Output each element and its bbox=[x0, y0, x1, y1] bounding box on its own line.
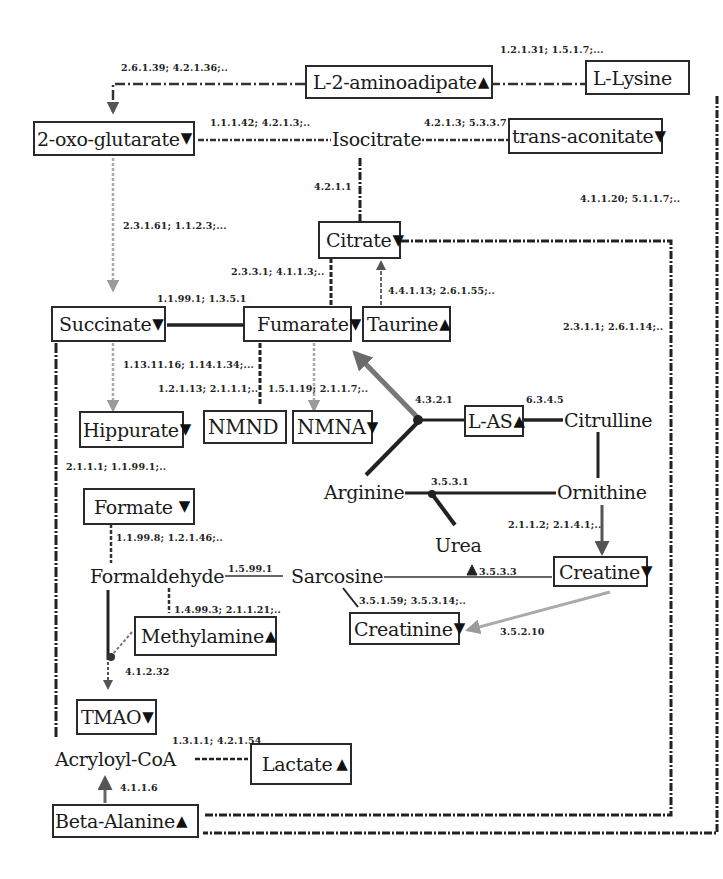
node-ornithine[interactable]: Ornithine bbox=[556, 481, 648, 503]
node-citrulline[interactable]: Citrulline bbox=[563, 409, 653, 431]
up-marker-icon: ▲ bbox=[478, 75, 489, 90]
node-label: Acryloyl-CoA bbox=[55, 748, 176, 770]
node-creatinine[interactable]: Creatinine▼ bbox=[349, 612, 460, 645]
node-creatine[interactable]: Creatine▼ bbox=[553, 556, 648, 587]
node-label: Creatinine bbox=[354, 618, 453, 640]
up-marker-icon: ▲ bbox=[336, 757, 347, 772]
las-junction-dot bbox=[413, 415, 423, 425]
edge-label: 1.3.1.1; 4.2.1.54 bbox=[172, 735, 262, 746]
down-marker-icon: ▼ bbox=[181, 131, 192, 146]
node-label: Lactate bbox=[262, 753, 332, 775]
edge-label: 1.2.1.31; 1.5.1.7;... bbox=[500, 44, 604, 55]
node-nmnd[interactable]: NMND bbox=[203, 410, 287, 444]
down-marker-icon: ▼ bbox=[152, 317, 163, 332]
edge-label: 1.13.11.16; 1.14.1.34;... bbox=[123, 359, 254, 370]
node-label: Arginine bbox=[324, 481, 404, 503]
node-l-as[interactable]: L-AS▲ bbox=[464, 405, 524, 437]
node-label: Citrulline bbox=[564, 409, 652, 431]
edge-arginine-urea bbox=[432, 494, 455, 525]
edge-label: 4.2.1.1 bbox=[314, 181, 352, 192]
edge-label: 4.3.2.1 bbox=[415, 394, 453, 405]
edge-label: 1.1.99.8; 1.2.1.46;.. bbox=[116, 532, 223, 543]
arginine-urea-junction-dot bbox=[428, 490, 436, 498]
node-2-oxo-glutarate[interactable]: 2-oxo-glutarate▼ bbox=[33, 121, 195, 156]
edge-label: 3.5.1.59; 3.5.3.14;.. bbox=[359, 595, 466, 606]
node-label: Creatine bbox=[559, 561, 640, 583]
up-marker-icon: ▲ bbox=[439, 317, 450, 332]
edge-label: 2.1.1.1; 1.1.99.1;.. bbox=[66, 461, 166, 472]
edge-aminoadipate-oxoglutarate bbox=[113, 84, 305, 112]
edge-label: 3.5.2.10 bbox=[500, 626, 545, 637]
node-succinate[interactable]: Succinate▼ bbox=[51, 306, 166, 342]
node-label: Isocitrate bbox=[332, 128, 421, 150]
down-marker-icon: ▼ bbox=[179, 499, 190, 514]
node-fumarate[interactable]: Fumarate▼ bbox=[243, 306, 352, 342]
node-tmao[interactable]: TMAO▼ bbox=[76, 699, 157, 735]
node-l-lysine[interactable]: L-Lysine bbox=[585, 60, 690, 95]
down-marker-icon: ▼ bbox=[142, 710, 153, 725]
down-marker-icon: ▼ bbox=[655, 129, 666, 144]
down-marker-icon: ▼ bbox=[392, 233, 403, 248]
node-label: L-2-aminoadipate bbox=[313, 71, 477, 93]
node-urea[interactable]: Urea bbox=[434, 534, 482, 556]
edge-label: 2.6.1.39; 4.2.1.36;.. bbox=[121, 62, 228, 73]
node-methylamine[interactable]: Methylamine▲ bbox=[134, 616, 277, 656]
edge-label: 2.1.1.2; 2.1.4.1;.. bbox=[508, 519, 601, 530]
edge-label: 2.3.1.61; 1.1.2.3;... bbox=[123, 220, 227, 231]
node-label: Formaldehyde bbox=[90, 565, 224, 587]
edge-label: 2.3.3.1; 4.1.1.3;.. bbox=[231, 266, 324, 277]
up-marker-icon: ▲ bbox=[265, 629, 276, 644]
node-label: Citrate bbox=[326, 229, 391, 251]
node-label: TMAO bbox=[81, 706, 141, 728]
node-label: trans-aconitate bbox=[512, 125, 654, 147]
edge-label: 4.1.1.6 bbox=[120, 782, 158, 793]
down-marker-icon: ▼ bbox=[180, 422, 191, 437]
edge-label: 4.1.2.32 bbox=[125, 666, 170, 677]
node-label: L-AS bbox=[468, 410, 513, 432]
node-acryloyl-coa[interactable]: Acryloyl-CoA bbox=[54, 748, 177, 770]
down-marker-icon: ▼ bbox=[367, 420, 378, 435]
node-hippurate[interactable]: Hippurate▼ bbox=[79, 411, 184, 448]
node-isocitrate[interactable]: Isocitrate bbox=[331, 128, 422, 150]
edge-label: 1.2.1.13; 2.1.1.1;.. bbox=[158, 383, 258, 394]
node-label: Methylamine bbox=[141, 625, 264, 647]
node-formaldehyde[interactable]: Formaldehyde bbox=[89, 565, 225, 587]
down-marker-icon: ▼ bbox=[454, 621, 465, 636]
node-label: Succinate bbox=[59, 313, 151, 335]
edge-sarcosine-creatinine bbox=[343, 588, 358, 607]
node-label: Sarcosine bbox=[291, 565, 383, 587]
urea-junction-marker bbox=[467, 565, 477, 575]
edge-label: 2.3.1.1; 2.6.1.14;.. bbox=[563, 321, 663, 332]
node-citrate[interactable]: Citrate▼ bbox=[318, 221, 401, 259]
node-label: Hippurate bbox=[83, 419, 179, 441]
node-beta-alanine[interactable]: Beta-Alanine▲ bbox=[52, 804, 199, 838]
edge-label: 3.5.3.3 bbox=[479, 566, 517, 577]
edge-label: 1.5.1.19; 2.1.1.7;.. bbox=[268, 383, 368, 394]
edge-label: 4.1.1.20; 5.1.1.7;.. bbox=[580, 193, 680, 204]
edge-lysine-right-loop bbox=[203, 96, 717, 833]
tmao-junction-dot bbox=[107, 653, 115, 661]
edge-creatine-creatinine bbox=[468, 592, 610, 630]
down-marker-icon: ▼ bbox=[350, 317, 361, 332]
node-arginine[interactable]: Arginine bbox=[323, 481, 405, 503]
edge-label: 1.1.99.1; 1.3.5.1 bbox=[157, 293, 247, 304]
node-label: Fumarate bbox=[257, 313, 349, 335]
node-trans-aconitate[interactable]: trans-aconitate▼ bbox=[508, 118, 663, 154]
down-marker-icon: ▼ bbox=[641, 564, 652, 579]
edge-label: 6.3.4.5 bbox=[526, 394, 564, 405]
up-marker-icon: ▲ bbox=[176, 814, 187, 829]
node-sarcosine[interactable]: Sarcosine bbox=[290, 565, 384, 587]
node-l2-aminoadipate[interactable]: L-2-aminoadipate▲ bbox=[305, 65, 493, 99]
node-label: NMNA bbox=[297, 415, 366, 439]
node-label: 2-oxo-glutarate bbox=[37, 128, 180, 150]
node-nmna[interactable]: NMNA▼ bbox=[292, 410, 373, 444]
node-label: Ornithine bbox=[557, 481, 647, 503]
up-marker-icon: ▲ bbox=[514, 414, 525, 429]
edge-label: 4.4.1.13; 2.6.1.55;.. bbox=[388, 285, 495, 296]
edge-label: 1.1.1.42; 4.2.1.3;.. bbox=[210, 117, 310, 128]
edge-methylamine-junction bbox=[112, 632, 132, 655]
node-label: Taurine bbox=[367, 313, 438, 335]
node-formate[interactable]: Formate▼ bbox=[83, 488, 195, 525]
node-lactate[interactable]: Lactate▲ bbox=[250, 743, 352, 785]
node-taurine[interactable]: Taurine▲ bbox=[362, 306, 451, 342]
